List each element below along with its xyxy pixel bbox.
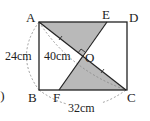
dimension-40cm: 40cm	[44, 49, 71, 63]
geometry-diagram: A E D B F C O 24cm 40cm 32cm .)	[0, 0, 150, 121]
label-C: C	[127, 90, 136, 105]
label-O: O	[85, 50, 94, 65]
label-F: F	[53, 90, 60, 105]
dimension-32cm: 32cm	[68, 101, 95, 115]
label-E: E	[102, 7, 110, 22]
label-D: D	[129, 10, 138, 25]
label-A: A	[26, 10, 36, 25]
label-B: B	[28, 90, 37, 105]
problem-prefix: .)	[0, 88, 5, 103]
dimension-24cm: 24cm	[5, 49, 32, 63]
